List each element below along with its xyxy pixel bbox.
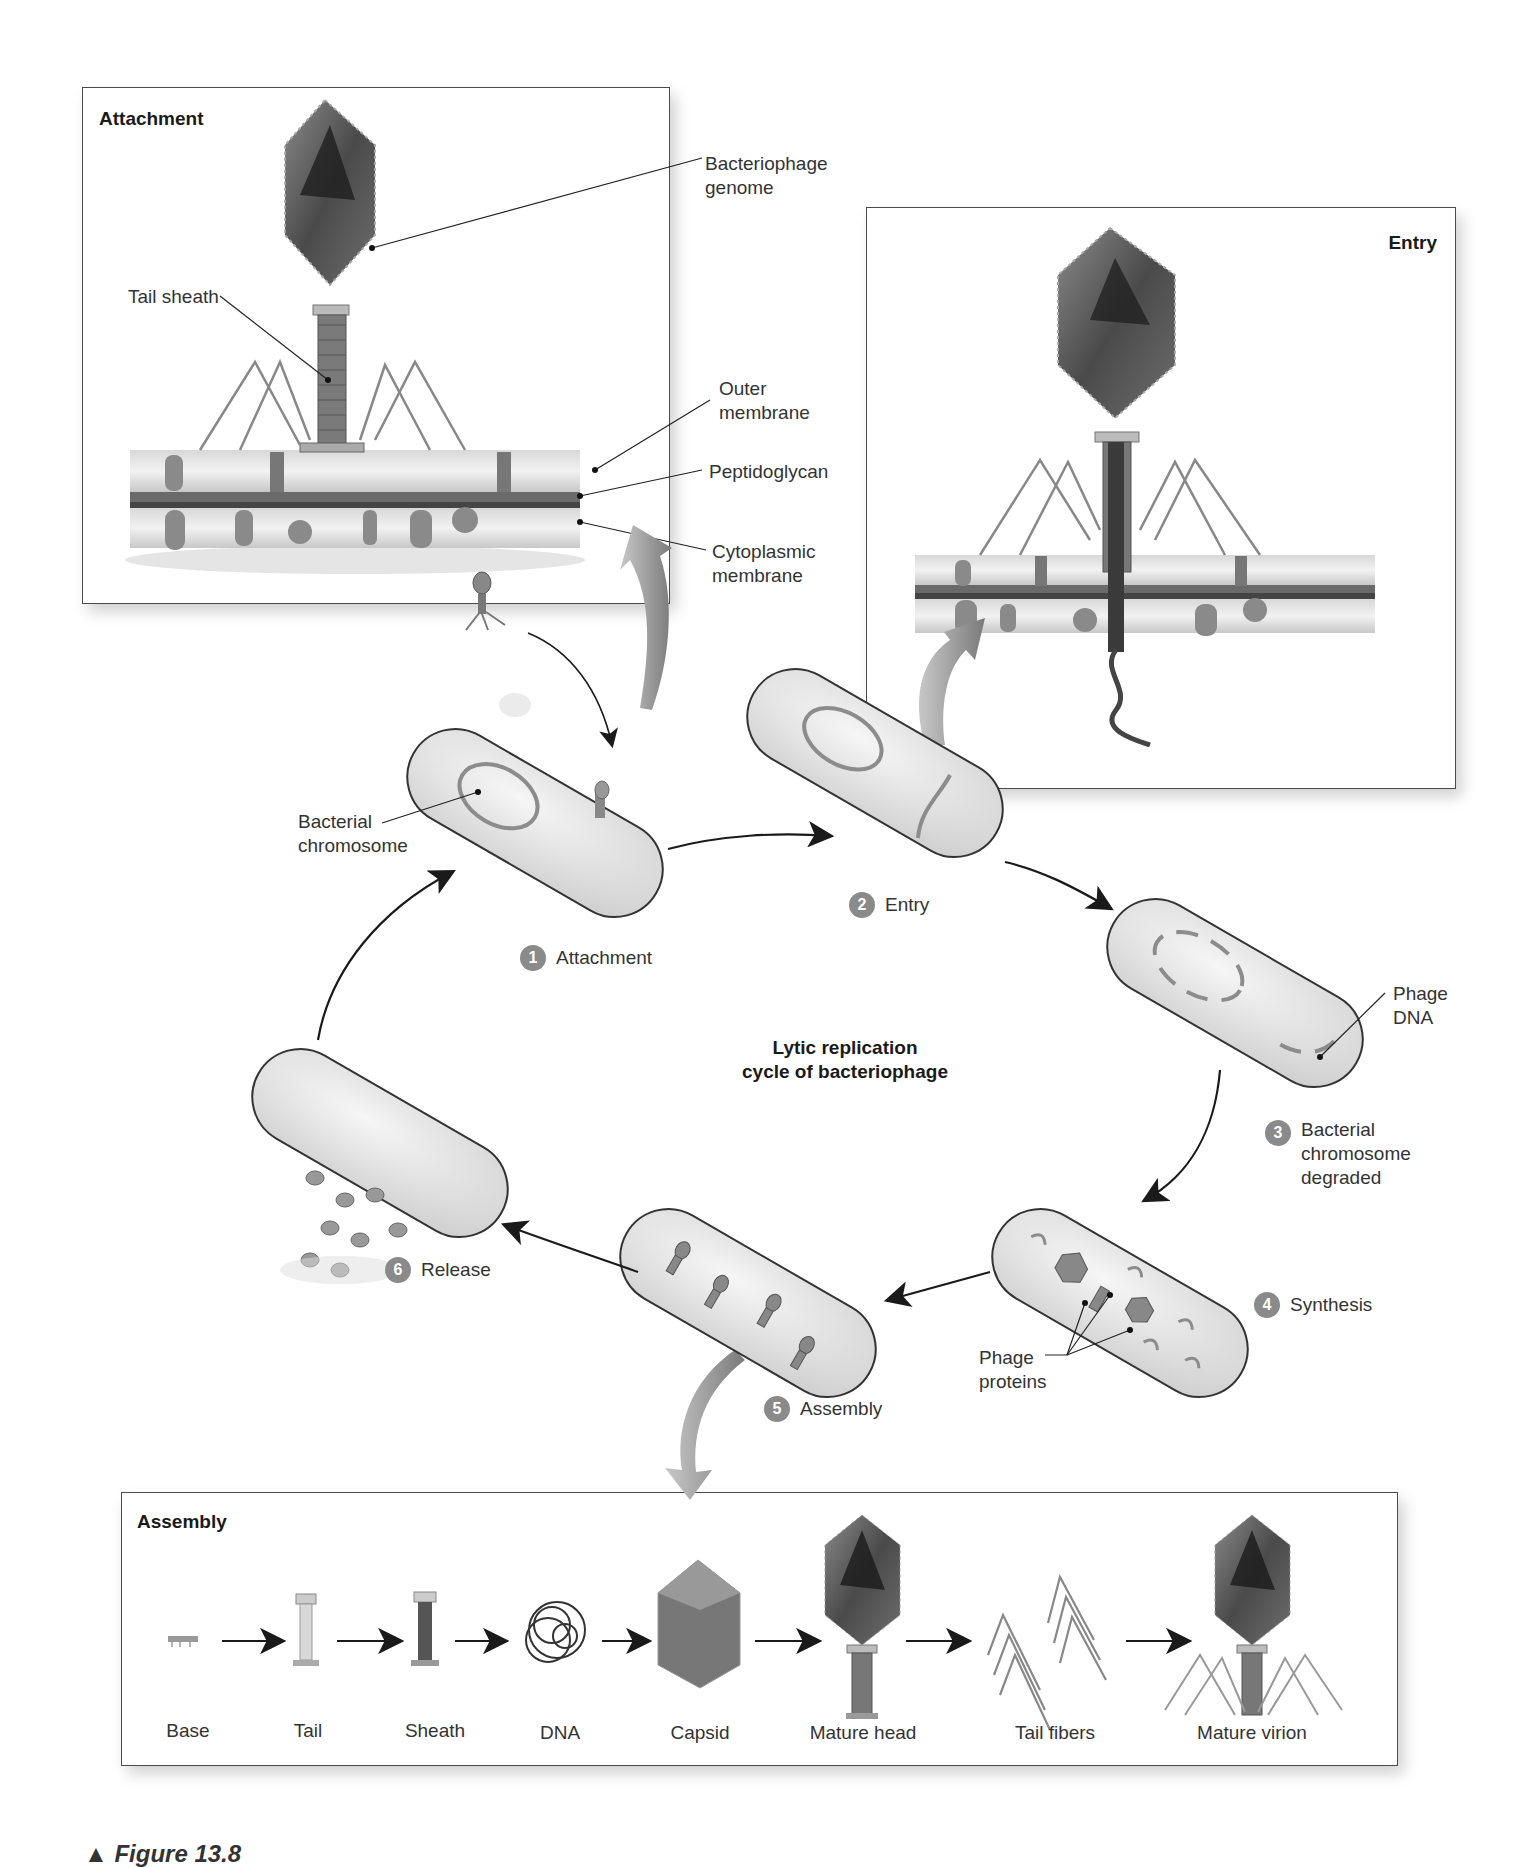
asm-mature-head-icon — [825, 1515, 900, 1719]
asm-tail-icon — [293, 1594, 319, 1666]
label-peptidoglycan: Peptidoglycan — [709, 460, 828, 484]
asm-tail-fibers-icon — [988, 1577, 1106, 1730]
label-phage-dna: Phage DNA — [1393, 982, 1448, 1030]
step-6-release: 6 Release — [385, 1257, 491, 1283]
step-5-assembly: 5 Assembly — [764, 1396, 882, 1422]
step-badge: 2 — [849, 892, 875, 918]
step-label: Bacterial chromosome degraded — [1301, 1118, 1411, 1190]
asm-base-icon — [168, 1636, 198, 1647]
label-bacterial-chromosome: Bacterial chromosome — [298, 810, 408, 858]
cycle-title-line-2: cycle of bacteriophage — [735, 1060, 955, 1084]
caption-triangle-icon: ▲ — [84, 1840, 114, 1867]
label-bacteriophage-genome: Bacteriophage genome — [705, 152, 828, 200]
cell-assembly — [603, 1191, 893, 1414]
asm-label-dna: DNA — [480, 1722, 640, 1744]
attachment-membrane — [125, 450, 585, 574]
step-3-degraded: 3 Bacterial chromosome degraded — [1265, 1120, 1411, 1190]
step-2-entry: 2 Entry — [849, 892, 929, 918]
entry-membrane — [915, 555, 1375, 636]
step-badge: 1 — [520, 945, 546, 971]
cell-attachment — [390, 711, 680, 934]
asm-sheath-icon — [411, 1592, 439, 1666]
step-1-attachment: 1 Attachment — [520, 945, 652, 971]
free-phage — [466, 572, 505, 630]
asm-label-capsid: Capsid — [620, 1722, 780, 1744]
assembly-zoom-arrow — [665, 1350, 745, 1500]
step-4-synthesis: 4 Synthesis — [1254, 1292, 1372, 1318]
step-badge: 6 — [385, 1257, 411, 1283]
step-badge: 3 — [1265, 1120, 1291, 1146]
step-label: Entry — [885, 894, 929, 916]
cell-entry — [730, 651, 1020, 874]
attachment-phage — [200, 100, 465, 452]
cycle-title-line-1: Lytic replication — [735, 1036, 955, 1060]
entry-zoom-arrow — [919, 618, 985, 745]
step-badge: 5 — [764, 1396, 790, 1422]
step-label: Assembly — [800, 1398, 882, 1420]
asm-label-mature-head: Mature head — [783, 1722, 943, 1744]
asm-mature-virion-icon — [1165, 1515, 1342, 1715]
attachment-zoom-arrow — [620, 525, 672, 710]
asm-dna-icon — [526, 1602, 585, 1662]
step-label: Synthesis — [1290, 1294, 1372, 1316]
label-outer-membrane: Outer membrane — [719, 377, 810, 425]
asm-label-mature-virion: Mature virion — [1172, 1722, 1332, 1744]
cell-degraded — [1090, 881, 1380, 1104]
label-phage-proteins: Phage proteins — [979, 1346, 1047, 1394]
assembly-sequence — [168, 1515, 1342, 1730]
label-cytoplasmic-membrane: Cytoplasmic membrane — [712, 540, 815, 588]
caption-text: Figure 13.8 — [114, 1840, 241, 1867]
step-label: Attachment — [556, 947, 652, 969]
figure-caption: ▲ Figure 13.8 — [84, 1840, 241, 1868]
step-badge: 4 — [1254, 1292, 1280, 1318]
step-label: Release — [421, 1259, 491, 1281]
entry-phage — [980, 228, 1260, 745]
cycle-title: Lytic replication cycle of bacteriophage — [735, 1036, 955, 1084]
label-tail-sheath: Tail sheath — [128, 285, 219, 309]
asm-capsid-icon — [658, 1560, 740, 1688]
cell-release — [235, 1031, 525, 1254]
asm-label-tail-fibers: Tail fibers — [975, 1722, 1135, 1744]
